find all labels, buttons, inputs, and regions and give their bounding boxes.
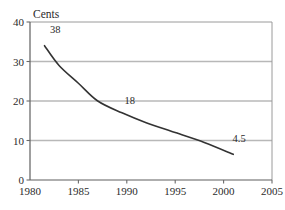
y-axis-label: Cents xyxy=(33,8,60,20)
chart-canvas: 010203040 198019851990199520002005 Cents… xyxy=(0,0,285,210)
y-tick-label-20: 20 xyxy=(13,95,25,107)
chart-figure: 010203040 198019851990199520002005 Cents… xyxy=(0,0,285,210)
y-tick-label-30: 30 xyxy=(13,56,25,68)
x-tick-label-1990: 1990 xyxy=(116,185,139,197)
x-tick-label-1995: 1995 xyxy=(164,185,187,197)
data-point-label-0: 38 xyxy=(50,24,61,35)
x-tick-label-2005: 2005 xyxy=(261,185,284,197)
y-tick-label-40: 40 xyxy=(13,16,25,28)
data-point-label-2: 4.5 xyxy=(233,133,246,144)
chart-background xyxy=(0,0,285,210)
data-point-label-1: 18 xyxy=(124,95,135,106)
y-tick-label-10: 10 xyxy=(13,135,25,147)
x-tick-label-1985: 1985 xyxy=(67,185,90,197)
x-tick-label-2000: 2000 xyxy=(213,185,236,197)
x-tick-label-1980: 1980 xyxy=(19,185,42,197)
